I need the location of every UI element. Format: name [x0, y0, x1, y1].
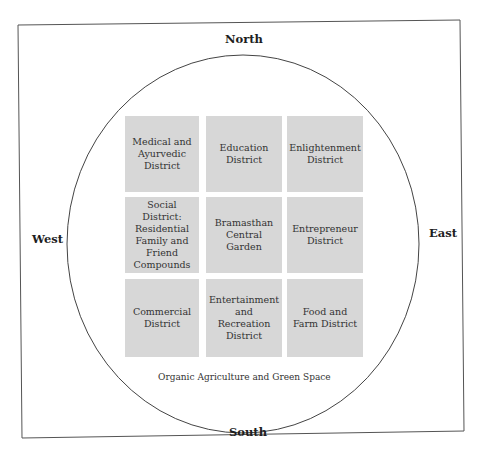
district-label-line: Entertainment — [208, 294, 280, 306]
district-label-line: Ayurvedic — [132, 148, 191, 160]
district-label: EntrepreneurDistrict — [292, 223, 358, 247]
district-label: Social District:ResidentialFamily andFri… — [127, 199, 197, 271]
district-box: CommercialDistrict — [125, 279, 199, 357]
district-label: EducationDistrict — [220, 142, 269, 166]
direction-west: West — [32, 232, 63, 246]
district-box: Food andFarm District — [287, 279, 363, 357]
district-label-line: Family and — [127, 235, 197, 247]
district-label-line: District — [208, 330, 280, 342]
direction-south: South — [229, 425, 267, 439]
district-label: CommercialDistrict — [133, 306, 191, 330]
district-label-line: Friend — [127, 247, 197, 259]
district-label-line: Compounds — [127, 259, 197, 271]
district-box: BramasthanCentral Garden — [206, 197, 282, 273]
district-label-line: District — [220, 154, 269, 166]
district-label: Entertainmentand RecreationDistrict — [208, 294, 280, 342]
surrounding-area-label: Organic Agriculture and Green Space — [158, 372, 331, 382]
district-label-line: Farm District — [293, 318, 357, 330]
district-label-line: Central Garden — [208, 229, 280, 253]
district-label-line: Bramasthan — [208, 217, 280, 229]
district-label-line: Social District: — [127, 199, 197, 223]
district-box: EnlightenmentDistrict — [287, 116, 363, 192]
district-label-line: District — [133, 318, 191, 330]
district-label-line: District — [289, 154, 360, 166]
district-label-line: Entrepreneur — [292, 223, 358, 235]
district-label-line: Medical and — [132, 136, 191, 148]
district-box: Medical andAyurvedicDistrict — [125, 116, 199, 192]
district-label: Medical andAyurvedicDistrict — [132, 136, 191, 172]
district-label: BramasthanCentral Garden — [208, 217, 280, 253]
district-label-line: Food and — [293, 306, 357, 318]
district-box: Social District:ResidentialFamily andFri… — [125, 197, 199, 273]
district-label: Food andFarm District — [293, 306, 357, 330]
district-box: Entertainmentand RecreationDistrict — [206, 279, 282, 357]
district-label-line: Residential — [127, 223, 197, 235]
district-label-line: District — [292, 235, 358, 247]
district-label-line: District — [132, 160, 191, 172]
direction-north: North — [225, 32, 263, 46]
district-box: EntrepreneurDistrict — [287, 197, 363, 273]
district-label-line: and Recreation — [208, 306, 280, 330]
district-label-line: Enlightenment — [289, 142, 360, 154]
district-label-line: Education — [220, 142, 269, 154]
district-box: EducationDistrict — [206, 116, 282, 192]
district-label: EnlightenmentDistrict — [289, 142, 360, 166]
direction-east: East — [429, 226, 457, 240]
district-label-line: Commercial — [133, 306, 191, 318]
